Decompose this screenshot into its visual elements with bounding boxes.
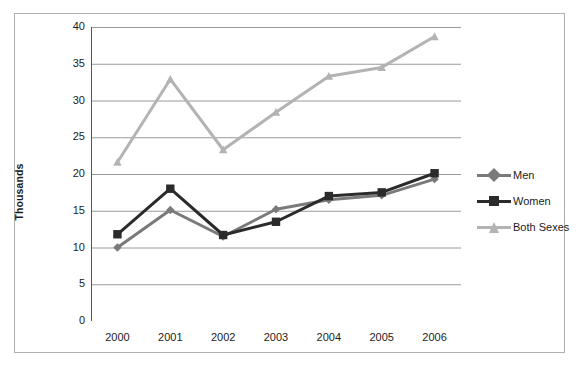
data-point-square — [219, 231, 227, 239]
y-tick-label: 30 — [51, 95, 85, 106]
y-tick-label: 5 — [51, 278, 85, 289]
series-both-sexes — [113, 32, 439, 165]
x-tick-label: 2001 — [140, 332, 200, 343]
triangle-marker-icon — [489, 222, 499, 233]
x-tick-label: 2006 — [405, 332, 465, 343]
legend-label-men: Men — [511, 169, 534, 181]
legend-label-both-sexes: Both Sexes — [511, 221, 569, 233]
y-tick-label: 35 — [51, 58, 85, 69]
legend-item-women[interactable]: Women — [477, 188, 573, 214]
series-women — [113, 169, 439, 239]
y-tick-label: 25 — [51, 131, 85, 142]
data-point-square — [166, 185, 174, 193]
data-point-square — [113, 230, 121, 238]
y-tick-label: 40 — [51, 21, 85, 32]
series-line — [117, 37, 434, 163]
legend-key-both-sexes — [477, 220, 511, 234]
chart-frame: Thousands 0510152025303540 2000200120022… — [14, 13, 565, 353]
diamond-marker-icon — [487, 168, 501, 182]
legend-key-men — [477, 168, 511, 182]
y-axis-tick-labels: 0510152025303540 — [49, 27, 85, 321]
y-tick-label: 10 — [51, 242, 85, 253]
chart-legend: Men Women Both Sexes — [477, 162, 573, 240]
data-point-square — [272, 218, 280, 226]
data-point-triangle — [166, 75, 174, 83]
y-tick-label: 15 — [51, 205, 85, 216]
data-point-triangle — [430, 32, 438, 40]
square-marker-icon — [489, 196, 499, 206]
y-axis-title: Thousands — [13, 132, 25, 252]
y-tick-label: 20 — [51, 168, 85, 179]
plot-area — [91, 27, 461, 321]
data-point-square — [430, 169, 438, 177]
legend-key-women — [477, 194, 511, 208]
series-men — [113, 175, 439, 252]
x-axis-tick-labels: 2000200120022003200420052006 — [91, 332, 461, 352]
x-tick-label: 2004 — [299, 332, 359, 343]
x-tick-label: 2003 — [246, 332, 306, 343]
x-tick-label: 2000 — [87, 332, 147, 343]
y-tick-label: 0 — [51, 315, 85, 326]
legend-item-men[interactable]: Men — [477, 162, 573, 188]
line-chart-svg — [91, 27, 461, 321]
x-tick-label: 2005 — [352, 332, 412, 343]
data-point-square — [325, 192, 333, 200]
legend-label-women: Women — [511, 195, 551, 207]
x-tick-label: 2002 — [193, 332, 253, 343]
legend-item-both-sexes[interactable]: Both Sexes — [477, 214, 573, 240]
data-point-square — [378, 188, 386, 196]
